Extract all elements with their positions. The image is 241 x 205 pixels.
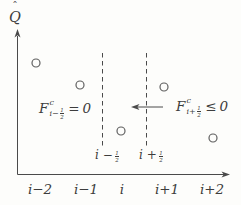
x-tick-label: i+1	[155, 181, 179, 197]
q-letter: Q	[9, 10, 21, 25]
rhs-value: 0	[219, 100, 228, 114]
x-tick-label: i	[120, 181, 124, 197]
flux-left-formula: F c i− 1 2 = 0	[39, 99, 91, 118]
flux-scripts-left: c i− 1 2	[49, 99, 64, 118]
rhs-value: 0	[82, 102, 91, 116]
x-tick-label: i−2	[28, 181, 52, 197]
flux-symbol-right: F c i+ 1 2	[176, 97, 201, 116]
interface-label-i-plus-half: i + 1 2	[139, 147, 163, 163]
x-tick-labels: i−2i−1ii+1i+2	[0, 181, 241, 199]
flux-symbol-left: F c i− 1 2	[39, 99, 64, 118]
x-tick-label: i−1	[74, 181, 98, 197]
relation-sign: =	[68, 102, 79, 116]
y-axis-label: ˆ Q	[9, 4, 21, 25]
x-tick-label: i+2	[200, 181, 224, 197]
half-fraction: 1 2	[159, 150, 164, 163]
scheme-diagram: ˆ Q F c i− 1 2 = 0 F c	[0, 0, 241, 205]
flux-scripts-right: c i+ 1 2	[186, 97, 201, 116]
flux-right-formula: F c i+ 1 2 ≤ 0	[176, 97, 228, 116]
half-fraction: 1 2	[60, 107, 65, 120]
relation-sign: ≤	[205, 100, 216, 114]
interface-label-i-minus-half: i − 1 2	[95, 147, 119, 163]
half-fraction: 1 2	[115, 150, 120, 163]
half-fraction: 1 2	[197, 105, 202, 118]
